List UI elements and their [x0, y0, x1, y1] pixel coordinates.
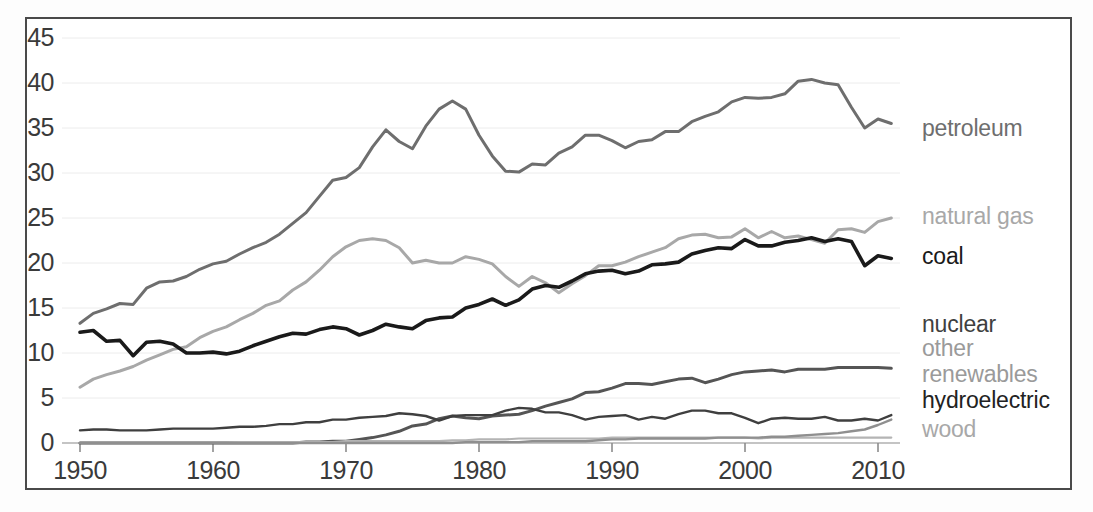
y-tick-label-45: 45 — [8, 25, 54, 50]
legend-label-hydroelectric: hydroelectric — [922, 389, 1050, 412]
legend-label-nuclear: nuclear — [922, 313, 996, 336]
y-tick-label-30: 30 — [8, 160, 54, 185]
x-tick-label-2000: 2000 — [695, 458, 795, 483]
y-tick-label-15: 15 — [8, 295, 54, 320]
y-tick-label-10: 10 — [8, 340, 54, 365]
gridlines-group — [62, 38, 900, 398]
y-tick-label-40: 40 — [8, 70, 54, 95]
legend-label-renewables: renewables — [922, 363, 1038, 386]
legend-label-petroleum: petroleum — [922, 117, 1022, 140]
x-tick-label-1960: 1960 — [163, 458, 263, 483]
series-line-nuclear — [80, 367, 891, 443]
chart-figure: 051015202530354045 195019601970198019902… — [0, 0, 1093, 512]
x-tick-label-1990: 1990 — [562, 458, 662, 483]
y-tick-label-25: 25 — [8, 205, 54, 230]
x-tick-label-1980: 1980 — [429, 458, 529, 483]
legend-label-wood: wood — [922, 418, 976, 441]
x-tick-label-2010: 2010 — [828, 458, 928, 483]
y-tick-label-20: 20 — [8, 250, 54, 275]
series-line-petroleum — [80, 79, 891, 323]
y-tick-label-35: 35 — [8, 115, 54, 140]
series-line-hydroelectric — [80, 408, 891, 431]
legend-label-coal: coal — [922, 245, 963, 268]
x-tick-label-1970: 1970 — [296, 458, 396, 483]
legend-label-other: other — [922, 337, 973, 360]
y-tick-label-5: 5 — [8, 385, 54, 410]
y-tick-label-0: 0 — [8, 430, 54, 455]
legend-label-natural-gas: natural gas — [922, 205, 1034, 228]
x-tick-label-1950: 1950 — [30, 458, 130, 483]
series-lines-group — [80, 79, 891, 443]
